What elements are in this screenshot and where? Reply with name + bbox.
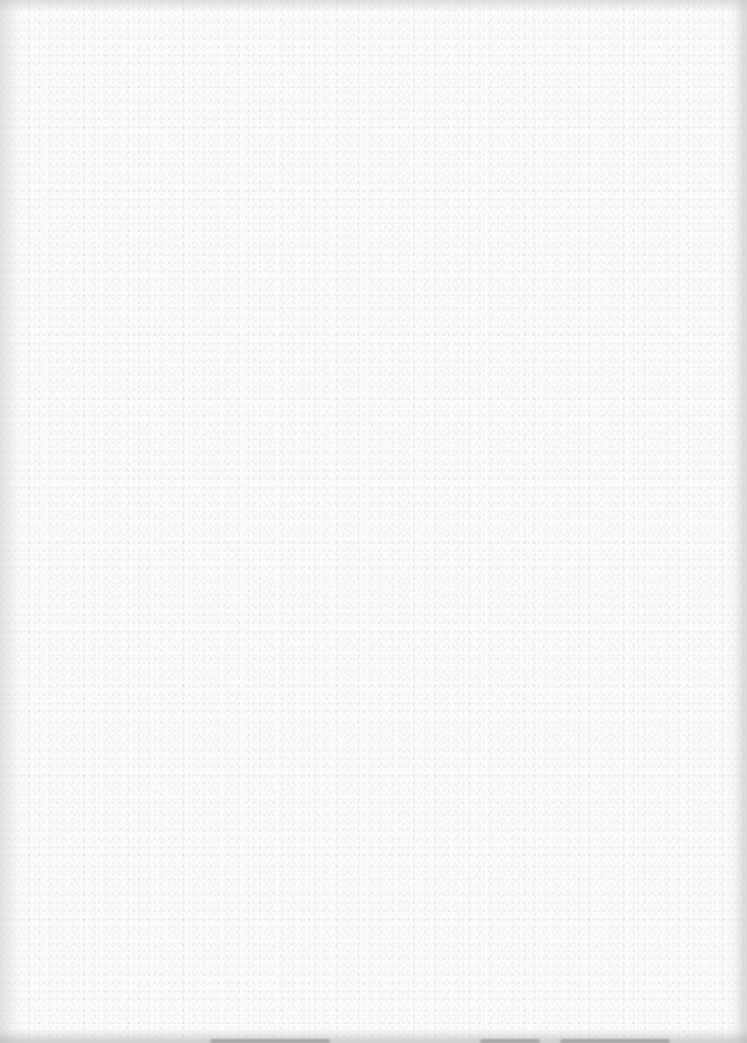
- top-edge-shadow: [0, 0, 747, 12]
- edge-smudge: [480, 1039, 540, 1043]
- right-edge-shadow: [725, 0, 747, 1043]
- edge-smudge: [210, 1039, 330, 1043]
- edge-smudge: [560, 1039, 670, 1043]
- paper-texture: [0, 0, 747, 1043]
- left-edge-shadow: [0, 0, 28, 1043]
- blank-paper-sheet: [0, 0, 747, 1043]
